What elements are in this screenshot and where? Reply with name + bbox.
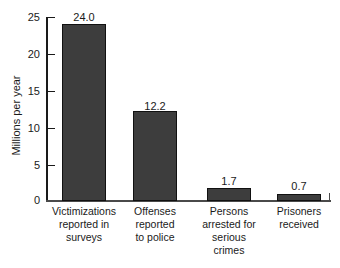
y-axis-line	[46, 17, 48, 202]
y-tick-mark-20	[48, 54, 55, 55]
y-axis-title: Millions per year	[11, 56, 22, 176]
x-category-line: Prisoners	[261, 205, 337, 218]
x-category-line: arrested for	[186, 218, 272, 231]
x-axis-end-tick	[329, 193, 330, 201]
y-tick-label-15: 15	[6, 86, 40, 97]
x-category-line: Victimizations	[44, 205, 124, 218]
bar-value-label-2: 1.7	[207, 176, 251, 187]
bar-value-label-0: 24.0	[62, 12, 106, 23]
bar-0	[62, 24, 106, 201]
x-category-label-2: Persons arrested for serious crimes	[186, 205, 272, 257]
x-category-line: to police	[117, 231, 193, 244]
bar-1	[133, 111, 177, 201]
x-category-line: reported	[117, 218, 193, 231]
y-tick-label-20: 20	[6, 49, 40, 60]
bar-chart: Millions per year 25 20 15 10 5 0 24.0 V…	[0, 0, 340, 268]
bar-2	[207, 188, 251, 201]
y-tick-label-25: 25	[6, 12, 40, 23]
x-category-line: reported in	[44, 218, 124, 231]
bar-3	[277, 194, 321, 201]
x-category-line: crimes	[186, 244, 272, 257]
x-category-label-0: Victimizations reported in surveys	[44, 205, 124, 244]
x-category-line: Offenses	[117, 205, 193, 218]
x-category-line: surveys	[44, 231, 124, 244]
y-tick-label-10: 10	[6, 123, 40, 134]
bar-value-label-3: 0.7	[277, 181, 321, 192]
y-tick-mark-25	[48, 17, 55, 18]
x-category-line: received	[261, 218, 337, 231]
y-tick-mark-15	[48, 91, 55, 92]
y-tick-label-0: 0	[6, 195, 40, 206]
x-category-line: serious	[186, 231, 272, 244]
x-category-label-3: Prisoners received	[261, 205, 337, 231]
y-tick-mark-10	[48, 128, 55, 129]
x-category-label-1: Offenses reported to police	[117, 205, 193, 244]
x-category-line: Persons	[186, 205, 272, 218]
y-tick-mark-5	[48, 165, 55, 166]
y-tick-label-5: 5	[6, 160, 40, 171]
